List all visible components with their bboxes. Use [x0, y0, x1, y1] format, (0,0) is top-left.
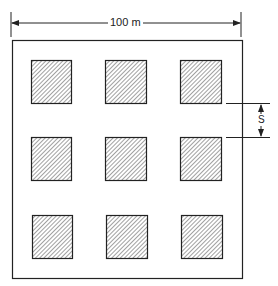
plot-layout-diagram [0, 0, 278, 286]
square-r3c2 [107, 216, 148, 259]
square-r2c1 [32, 138, 72, 181]
square-r1c3 [181, 61, 222, 104]
width-label: 100 m [108, 16, 143, 28]
square-r2c2 [106, 138, 147, 181]
square-r2c3 [181, 138, 222, 181]
square-r1c2 [106, 61, 147, 104]
square-r3c3 [182, 216, 223, 259]
square-r3c1 [33, 216, 73, 259]
spacing-label: S [256, 114, 267, 126]
square-grid [32, 61, 223, 259]
square-r1c1 [32, 61, 72, 104]
